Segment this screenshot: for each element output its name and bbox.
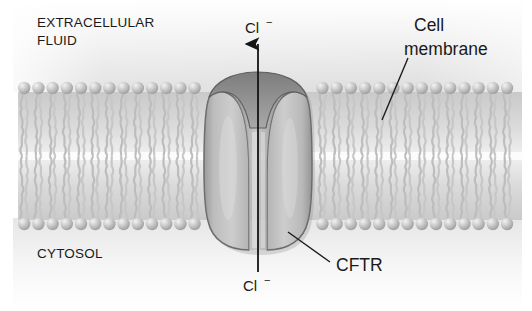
lipid-head	[416, 82, 428, 94]
lipid-head	[487, 218, 499, 230]
lipid-head	[345, 82, 357, 94]
lipid-head	[61, 218, 73, 230]
chloride-ion-top-symbol: Cl	[245, 19, 259, 36]
extracellular-fluid-label-line1: EXTRACELLULAR	[37, 15, 154, 30]
lipid-head	[501, 218, 513, 230]
lipid-head	[89, 218, 101, 230]
lipid-head	[401, 218, 413, 230]
cftr-membrane-diagram: EXTRACELLULAR FLUID CYTOSOL Cell membran…	[0, 0, 532, 311]
lipid-head	[373, 82, 385, 94]
cftr-pore-highlight-2	[261, 132, 265, 248]
lipid-tail	[475, 157, 478, 222]
cell-membrane-label-line2: membrane	[404, 39, 488, 59]
chloride-ion-top-charge: −	[266, 16, 272, 28]
cftr-protein[interactable]	[204, 72, 315, 255]
cytosol-label: CYTOSOL	[37, 246, 103, 261]
left-page-margin	[0, 0, 13, 311]
lipid-head	[387, 218, 399, 230]
extracellular-fluid-label-line2: FLUID	[37, 33, 77, 48]
lipid-head	[132, 82, 144, 94]
lipid-head	[501, 82, 513, 94]
lipid-head	[46, 82, 58, 94]
lipid-head	[174, 82, 186, 94]
lipid-head	[188, 218, 200, 230]
lipid-head	[316, 218, 328, 230]
lipid-head	[345, 218, 357, 230]
lipid-head	[146, 218, 158, 230]
lipid-tail	[494, 90, 497, 155]
lipid-head	[458, 218, 470, 230]
lipid-head	[430, 218, 442, 230]
lipid-head	[132, 218, 144, 230]
lipid-head	[117, 218, 129, 230]
lipid-head	[146, 82, 158, 94]
chloride-ion-bottom-charge: −	[264, 274, 270, 286]
lipid-head	[174, 218, 186, 230]
lipid-head	[75, 218, 87, 230]
cftr-highlight-right	[282, 118, 298, 218]
lipid-head	[160, 218, 172, 230]
lipid-head	[330, 82, 342, 94]
lipid-head	[103, 82, 115, 94]
lipid-head	[75, 82, 87, 94]
lipid-head	[188, 82, 200, 94]
cftr-label: CFTR	[336, 255, 383, 275]
lipid-head	[18, 218, 30, 230]
lipid-head	[316, 82, 328, 94]
lipid-head	[472, 82, 484, 94]
lipid-head	[444, 218, 456, 230]
lipid-head	[359, 82, 371, 94]
lipid-head	[373, 218, 385, 230]
lipid-head	[32, 218, 44, 230]
lipid-head	[444, 82, 456, 94]
lipid-head	[160, 82, 172, 94]
cell-membrane-label-line1: Cell	[414, 15, 444, 35]
lipid-head	[401, 82, 413, 94]
lipid-head	[487, 82, 499, 94]
cftr-pore-highlight	[252, 132, 257, 248]
lipid-head	[18, 82, 30, 94]
lipid-head	[46, 218, 58, 230]
lipid-head	[416, 218, 428, 230]
right-page-margin	[522, 0, 532, 311]
lipid-head	[472, 218, 484, 230]
lipid-head	[32, 82, 44, 94]
lipid-head	[330, 218, 342, 230]
lipid-head	[359, 218, 371, 230]
diagram-canvas: EXTRACELLULAR FLUID CYTOSOL Cell membran…	[0, 0, 532, 311]
lipid-head	[89, 82, 101, 94]
cftr-highlight-left	[219, 116, 237, 220]
lipid-head	[458, 82, 470, 94]
lipid-head	[61, 82, 73, 94]
lipid-head	[430, 82, 442, 94]
lipid-head	[103, 218, 115, 230]
chloride-ion-bottom-symbol: Cl	[243, 277, 257, 294]
lipid-head	[117, 82, 129, 94]
lipid-tail	[503, 90, 506, 155]
